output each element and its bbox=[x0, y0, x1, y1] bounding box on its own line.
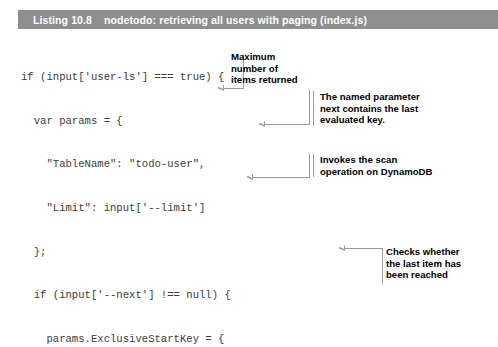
code-listing: if (input['user-ls'] === true) { var par… bbox=[21, 41, 377, 347]
listing-caption: nodetodo: retrieving all users with pagi… bbox=[92, 14, 367, 26]
listing-number: Listing 10.8 bbox=[18, 14, 92, 26]
code-line: }; bbox=[21, 245, 377, 260]
callout-line: next contains the last bbox=[320, 103, 420, 115]
code-line: params.ExclusiveStartKey = { bbox=[21, 332, 377, 347]
callout-arrow-icon bbox=[338, 245, 345, 251]
callout-arrow-icon bbox=[258, 121, 265, 127]
callout-line: the last item has bbox=[386, 258, 461, 270]
callout-line: The named parameter bbox=[320, 91, 420, 103]
callout-line: Maximum bbox=[231, 51, 298, 63]
code-line: if (input['--next'] !== null) { bbox=[21, 288, 377, 303]
callout-last-item-note: Checks whether the last item has been re… bbox=[386, 246, 461, 281]
callout-line: items returned bbox=[231, 74, 298, 86]
callout-line: operation on DynamoDB bbox=[320, 166, 432, 178]
callout-arrow-icon bbox=[246, 174, 253, 180]
callout-line: evaluated key. bbox=[320, 114, 420, 126]
callout-line: Invokes the scan bbox=[320, 154, 432, 166]
callout-line: been reached bbox=[386, 269, 461, 281]
callout-limit-note: Maximum number of items returned bbox=[231, 51, 298, 86]
callout-scan-note: Invokes the scan operation on DynamoDB bbox=[313, 154, 432, 177]
listing-header-bar: Listing 10.8 nodetodo: retrieving all us… bbox=[18, 10, 498, 29]
callout-next-param-note: The named parameter next contains the la… bbox=[313, 91, 420, 126]
callout-arrow-icon bbox=[217, 85, 224, 91]
callout-line: number of bbox=[231, 63, 298, 75]
callout-line: Checks whether bbox=[386, 246, 461, 258]
code-line: "Limit": input['--limit'] bbox=[21, 201, 377, 216]
code-line: if (input['user-ls'] === true) { bbox=[21, 70, 377, 85]
